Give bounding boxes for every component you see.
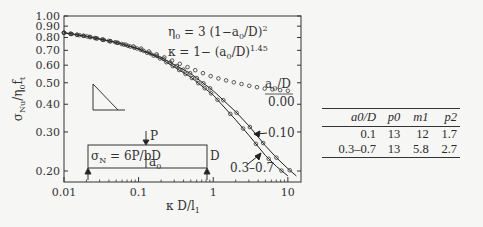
x-tick-label: 10 xyxy=(281,186,295,199)
cell: 0.1 xyxy=(322,127,379,143)
y-tick-label: 0.20 xyxy=(36,165,61,178)
cell: 5.8 xyxy=(403,142,431,158)
legend-labels: a0/D 0.00 0.10 0.3–0.7 xyxy=(230,77,295,175)
svg-text:η0 = 3 (1−a0/D)2: η0 = 3 (1−a0/D)2 xyxy=(168,24,268,41)
header-m1: m1 xyxy=(403,109,431,127)
y-tick-label: 0.50 xyxy=(36,77,61,90)
x-axis-label: κ D/l1 xyxy=(166,199,200,215)
x-tick-label: 1 xyxy=(210,186,217,199)
svg-text:P: P xyxy=(150,129,158,143)
x-tick-label: 0.1 xyxy=(130,186,148,199)
parameter-table: a0/D p0 m1 p2 0.1 13 12 1.7 0.3–0.7 13 5… xyxy=(322,108,460,158)
y-tick-label: 1.00 xyxy=(36,10,61,23)
cell: 12 xyxy=(403,127,431,143)
label-arrows xyxy=(248,131,267,164)
y-tick-label: 0.60 xyxy=(36,59,61,72)
svg-text:0.3–0.7: 0.3–0.7 xyxy=(230,161,274,175)
y-tick-label: 0.80 xyxy=(36,31,61,44)
y-axis-label: σNu/η0ft xyxy=(11,76,27,121)
table-row: 0.1 13 12 1.7 xyxy=(322,127,460,143)
cell: 13 xyxy=(379,142,403,158)
cell: 2.7 xyxy=(432,142,460,158)
x-tick-label: 0.01 xyxy=(52,186,77,199)
y-tick-label: 0.30 xyxy=(36,126,61,139)
y-tick-label: 0.40 xyxy=(36,98,61,111)
svg-text:D: D xyxy=(210,149,220,163)
beam-inset-labels: σN = 6P/bD P a0 D xyxy=(91,129,220,171)
svg-text:0.00: 0.00 xyxy=(268,95,295,109)
svg-text:0.10: 0.10 xyxy=(268,126,295,140)
cell: 1.7 xyxy=(432,127,460,143)
cell: 13 xyxy=(379,127,403,143)
header-p2: p2 xyxy=(432,109,460,127)
cell: 0.3–0.7 xyxy=(322,142,379,158)
slope-triangle xyxy=(93,84,125,110)
table-row: 0.3–0.7 13 5.8 2.7 xyxy=(322,142,460,158)
header-p0: p0 xyxy=(379,109,403,127)
svg-text:κ = 1− (a0/D)1.45: κ = 1− (a0/D)1.45 xyxy=(168,44,268,61)
header-a0-over-D: a0/D xyxy=(322,109,379,127)
y-tick-label: 0.70 xyxy=(36,44,61,57)
equations: η0 = 3 (1−a0/D)2 κ = 1− (a0/D)1.45 xyxy=(168,24,268,61)
svg-text:a0/D: a0/D xyxy=(265,77,291,93)
